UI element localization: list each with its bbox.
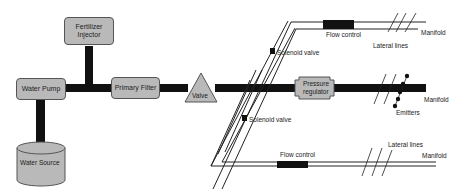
flow-control-bottom-label: Flow control — [280, 152, 315, 159]
manifold-top-label: Manifold — [421, 30, 446, 37]
solenoid-valve-bottom-label: Solenoid valve — [249, 117, 291, 124]
fertilizer-injector-label: Fertilizer Injector — [65, 23, 113, 39]
primary-filter-box: Primary Filter — [111, 77, 160, 99]
lower-branch-inner-a — [225, 70, 262, 152]
filter-to-valve-pipe — [158, 84, 188, 92]
primary-filter-label: Primary Filter — [115, 84, 157, 92]
fertilizer-injector-box: Fertilizer Injector — [64, 17, 114, 45]
water-pump-label: Water Pump — [22, 85, 61, 93]
manifold-middle-label: Manifold — [424, 97, 449, 104]
flow-control-bottom — [277, 161, 308, 168]
injector-pipe — [85, 46, 93, 88]
pump-to-filter-pipe — [65, 84, 113, 92]
solenoid-valve-top — [270, 48, 275, 54]
source-to-pump-pipe — [36, 100, 45, 144]
emitters-label: Emitters — [396, 110, 420, 117]
water-pump-box: Water Pump — [16, 78, 66, 100]
manifold-bottom-label: Manifold — [422, 153, 447, 160]
water-source-label: Water Source — [20, 160, 60, 167]
pressure-regulator-label: Pressure regulator — [303, 80, 327, 96]
solenoid-valve-bottom — [242, 115, 247, 121]
branch-outline — [211, 21, 295, 166]
lateral-lines-top-label: Lateral lines — [373, 43, 408, 50]
valve-label: Valve — [192, 93, 208, 100]
flow-control-top-label: Flow control — [326, 32, 361, 39]
flow-control-top — [323, 20, 354, 29]
lateral-lines-bottom-label: Lateral lines — [388, 142, 423, 149]
solenoid-valve-top-label: Solenoid valve — [277, 50, 319, 57]
